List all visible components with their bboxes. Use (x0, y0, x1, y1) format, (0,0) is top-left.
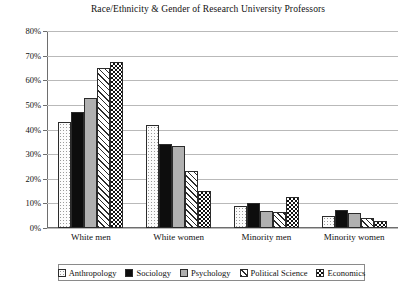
legend-label: Political Science (251, 268, 308, 278)
bar-anthropology[interactable] (58, 122, 71, 228)
legend-label: Anthropology (69, 268, 117, 278)
bar-psychology[interactable] (84, 98, 97, 229)
legend-item-anthropology[interactable]: Anthropology (58, 268, 117, 278)
bar-sociology[interactable] (247, 203, 260, 228)
y-axis-tick-label: 50% (25, 100, 41, 110)
y-axis-tick-label: 0% (30, 223, 41, 233)
legend-swatch-icon (125, 269, 133, 277)
plot-area: 80%70%60%50%40%30%20%10%0% White menWhit… (47, 31, 398, 228)
legend-label: Psychology (191, 268, 231, 278)
bar-sociology[interactable] (71, 112, 84, 228)
bar-psychology[interactable] (260, 211, 273, 228)
gridline (47, 228, 398, 229)
bar-psychology[interactable] (348, 213, 361, 228)
chart-container: Race/Ethnicity & Gender of Research Univ… (0, 0, 416, 293)
x-axis-category-label: White men (47, 232, 135, 242)
y-axis-tick-label: 60% (25, 75, 41, 85)
legend-swatch-icon (240, 269, 248, 277)
bar-sociology[interactable] (159, 144, 172, 228)
legend-item-political-science[interactable]: Political Science (240, 268, 308, 278)
bar-anthropology[interactable] (146, 125, 159, 228)
y-axis-tick-label: 80% (25, 26, 41, 36)
bar-political-science[interactable] (273, 212, 286, 228)
bar-political-science[interactable] (97, 68, 110, 228)
bar-group: Minority men (223, 31, 311, 228)
bar-economics[interactable] (110, 62, 123, 228)
x-axis-category-label: Minority men (223, 232, 311, 242)
bar-economics[interactable] (374, 221, 387, 228)
bar-group: White men (47, 31, 135, 228)
legend-label: Economics (327, 268, 365, 278)
bar-group: White women (135, 31, 223, 228)
bar-anthropology[interactable] (234, 206, 247, 228)
y-axis-tick-label: 20% (25, 174, 41, 184)
bar-group: Minority women (310, 31, 398, 228)
bar-sociology[interactable] (335, 210, 348, 228)
legend-swatch-icon (180, 269, 188, 277)
bar-economics[interactable] (198, 191, 211, 228)
y-axis-tick-label: 30% (25, 149, 41, 159)
bar-political-science[interactable] (185, 171, 198, 228)
bar-psychology[interactable] (172, 146, 185, 228)
x-axis-category-label: White women (135, 232, 223, 242)
x-axis-category-label: Minority women (310, 232, 398, 242)
bar-group-bars (223, 31, 311, 228)
bar-political-science[interactable] (361, 218, 374, 228)
legend-swatch-icon (58, 269, 66, 277)
y-axis-tick-label: 40% (25, 125, 41, 135)
chart-legend: AnthropologySociologyPsychologyPolitical… (58, 264, 365, 281)
y-axis-tick-label: 10% (25, 198, 41, 208)
bar-group-bars (47, 31, 135, 228)
chart-title: Race/Ethnicity & Gender of Research Univ… (0, 4, 416, 14)
bar-anthropology[interactable] (322, 216, 335, 228)
legend-item-psychology[interactable]: Psychology (180, 268, 231, 278)
y-axis-tick-mark (43, 228, 47, 229)
bar-group-bars (310, 31, 398, 228)
bar-groups: White menWhite womenMinority menMinority… (47, 31, 398, 228)
y-axis-tick-label: 70% (25, 51, 41, 61)
legend-item-economics[interactable]: Economics (316, 268, 365, 278)
bar-group-bars (135, 31, 223, 228)
legend-swatch-icon (316, 269, 324, 277)
legend-label: Sociology (136, 268, 170, 278)
bar-economics[interactable] (286, 197, 299, 228)
legend-item-sociology[interactable]: Sociology (125, 268, 170, 278)
